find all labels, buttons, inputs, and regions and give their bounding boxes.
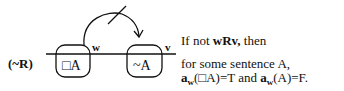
world-w-content: □A <box>62 58 81 74</box>
consequence-line-1: for some sentence A, <box>181 57 290 71</box>
consequence-line-2: aw(□A)=T and aw(A)=F. <box>181 71 308 89</box>
world-w-label: w <box>92 41 100 53</box>
world-v-label: v <box>165 41 171 53</box>
condition-line: If not wRv, then <box>181 34 266 48</box>
rule-label: (~R) <box>8 56 33 72</box>
world-v-content: ~A <box>133 58 151 74</box>
